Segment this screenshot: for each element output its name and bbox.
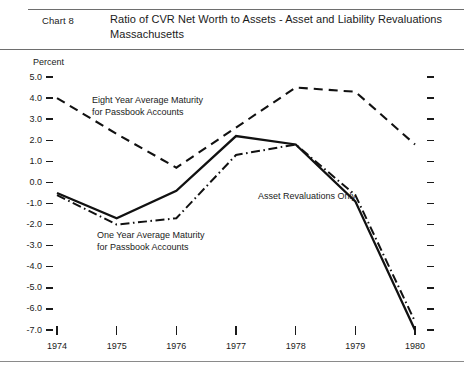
- footer-rule: [0, 361, 464, 362]
- chart-page: Chart 8 Ratio of CVR Net Worth to Assets…: [0, 0, 464, 370]
- annotation-one-year-line-1: One Year Average Maturity: [97, 230, 204, 242]
- annotation-one-year-line-2: for Passbook Accounts: [97, 242, 204, 254]
- annotation-eight-year-line-2: for Passbook Accounts: [92, 107, 203, 119]
- annotation-eight-year-line-1: Eight Year Average Maturity: [92, 95, 203, 107]
- annotation-one-year-average-maturity: One Year Average Maturity for Passbook A…: [97, 230, 204, 253]
- annotation-asset-revaluations-label: Asset Revaluations Only: [258, 191, 356, 203]
- annotation-asset-revaluations-only: Asset Revaluations Only: [258, 191, 356, 203]
- series-layer: [0, 0, 464, 370]
- annotation-eight-year-average-maturity: Eight Year Average Maturity for Passbook…: [92, 95, 203, 118]
